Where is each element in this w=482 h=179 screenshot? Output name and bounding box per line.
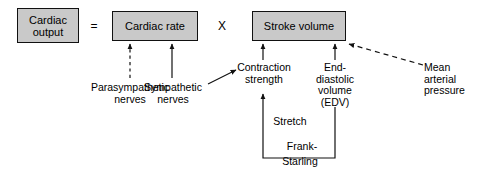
- equals-symbol: =: [84, 20, 104, 32]
- label-contraction-strength: Contraction strength: [236, 62, 292, 85]
- label-frank-starling-line2: Starling: [272, 156, 328, 168]
- connector-sympathetic-to-contraction-strength: [208, 70, 236, 84]
- multiply-symbol: X: [212, 20, 232, 32]
- node-cardiac-rate[interactable]: Cardiac rate: [112, 11, 198, 41]
- label-frank-starling-line1: Frank-: [276, 141, 328, 153]
- label-end-diastolic-volume: End- diastolic volume (EDV): [307, 62, 363, 108]
- label-stretch: Stretch: [265, 116, 315, 128]
- label-mean-arterial-pressure: Mean arterial pressure: [424, 62, 480, 97]
- node-cardiac-output[interactable]: Cardiac output: [17, 8, 79, 43]
- node-stroke-volume[interactable]: Stroke volume: [252, 11, 346, 41]
- cardiac-output-diagram: Cardiac output = Cardiac rate X Stroke v…: [0, 0, 482, 179]
- label-sympathetic-nerves: Sympathetic nerves: [140, 82, 206, 105]
